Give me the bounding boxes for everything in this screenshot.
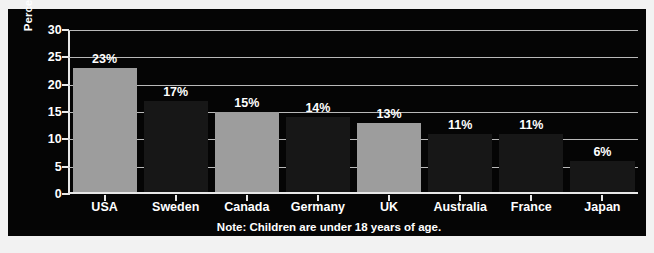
y-axis-tick-label: 0 (55, 187, 62, 201)
bar-value-label: 6% (570, 145, 634, 159)
y-axis-tick-labels: 051015202530 (36, 30, 62, 194)
x-axis-label-sweden: Sweden (140, 200, 211, 214)
y-axis-tick-label: 15 (48, 105, 62, 119)
y-axis-tick-label: 10 (48, 132, 62, 146)
bar-usa (73, 68, 137, 194)
bar-canada (215, 112, 279, 194)
x-axis-label-france: France (496, 200, 567, 214)
x-axis-label-japan: Japan (567, 200, 638, 214)
x-axis-label-germany: Germany (282, 200, 353, 214)
plot-area: 23%17%15%14%13%11%11%6% (69, 30, 638, 194)
bar-germany (286, 117, 350, 194)
x-axis-category-labels: USASwedenCanadaGermanyUKAustraliaFranceJ… (69, 200, 638, 216)
bar-value-label: 14% (286, 101, 350, 115)
bar-chart-figure: Percentage of families with children 051… (0, 0, 654, 253)
gridline (69, 57, 638, 58)
y-axis-tick-label: 5 (55, 160, 62, 174)
y-axis-tick-label: 20 (48, 78, 62, 92)
bar-sweden (144, 101, 208, 194)
bar-japan (570, 161, 634, 194)
bar-uk (357, 123, 421, 194)
gridline (69, 30, 638, 31)
bar-value-label: 17% (144, 85, 208, 99)
bar-value-label: 15% (215, 96, 279, 110)
chart-panel: Percentage of families with children 051… (8, 9, 646, 236)
x-axis-label-usa: USA (69, 200, 140, 214)
y-axis-tick-label: 30 (48, 23, 62, 37)
y-axis-tick-label: 25 (48, 50, 62, 64)
bar-value-label: 13% (357, 107, 421, 121)
x-axis-line (68, 192, 638, 194)
bar-australia (428, 134, 492, 194)
chart-note: Note: Children are under 18 years of age… (69, 221, 589, 233)
bar-france (499, 134, 563, 194)
x-axis-label-australia: Australia (425, 200, 496, 214)
bar-value-label: 11% (499, 118, 563, 132)
x-axis-label-canada: Canada (211, 200, 282, 214)
bar-value-label: 23% (73, 52, 137, 66)
bar-value-label: 11% (428, 118, 492, 132)
x-axis-label-uk: UK (354, 200, 425, 214)
